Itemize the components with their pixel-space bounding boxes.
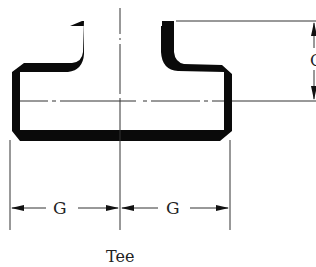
dimension-g-left-label: G bbox=[53, 198, 67, 218]
dimension-g-left: G bbox=[11, 198, 119, 218]
arrow-right-icon bbox=[216, 205, 229, 211]
tee-body bbox=[12, 21, 232, 141]
arrow-left-icon bbox=[11, 205, 24, 211]
arrow-right-icon bbox=[106, 205, 119, 211]
tee-bore bbox=[20, 21, 224, 130]
dimension-g-right: G bbox=[121, 198, 229, 218]
tee-fitting-diagram: C G G Tee bbox=[0, 0, 316, 267]
arrow-left-icon bbox=[121, 205, 134, 211]
dimension-c-label: C bbox=[310, 51, 316, 70]
dimension-c: C bbox=[310, 22, 316, 100]
dimension-g-right-label: G bbox=[166, 198, 180, 218]
diagram-caption: Tee bbox=[106, 247, 134, 266]
